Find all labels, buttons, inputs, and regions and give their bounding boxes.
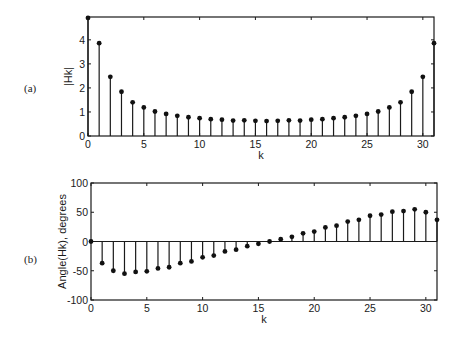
y-tick-label: 50 (76, 206, 88, 218)
stem-marker (130, 100, 135, 105)
stem-marker (245, 244, 250, 249)
y-tick-label: -100 (67, 294, 88, 306)
y-tick-label: 0 (82, 236, 88, 248)
x-tick-label: 10 (197, 302, 209, 314)
stem-marker (290, 234, 295, 239)
phase-stem-plot: 051015202530-100-50050100 k Angle(Hk), d… (56, 177, 439, 325)
stem-marker (312, 229, 317, 234)
stem-marker (220, 117, 225, 122)
stem-marker (234, 247, 239, 252)
stem-marker (133, 270, 138, 275)
stem-marker (267, 239, 272, 244)
stem-marker (435, 217, 440, 222)
x-tick-label: 10 (194, 138, 206, 150)
stem-marker (356, 217, 361, 222)
stem-marker (331, 116, 336, 121)
stem-marker (253, 118, 258, 123)
stem-marker (97, 41, 102, 46)
stem-marker (387, 105, 392, 110)
magnitude-stem-plot: 05101520253001234 k |Hk| (62, 16, 436, 161)
stem-marker (164, 111, 169, 116)
stem-marker (111, 268, 116, 273)
stem-marker (197, 116, 202, 121)
x-axis-label: k (258, 149, 264, 161)
stem-marker (242, 118, 247, 123)
stem-marker (256, 241, 261, 246)
stem-marker (89, 239, 94, 244)
stem-marker (186, 115, 191, 120)
stem-marker (376, 109, 381, 114)
x-tick-label: 20 (305, 138, 317, 150)
x-tick-label: 25 (364, 302, 376, 314)
stem-marker (323, 225, 328, 230)
stem-marker (412, 207, 417, 212)
y-tick-label: -50 (73, 265, 88, 277)
stem-marker (287, 118, 292, 123)
axis-ticks: 051015202530-100-50050100 (67, 177, 437, 314)
x-tick-label: 0 (88, 302, 94, 314)
stem-marker (175, 113, 180, 118)
y-tick-label: 0 (79, 130, 85, 142)
stem-marker (368, 213, 373, 218)
stem-marker (189, 259, 194, 264)
stem-marker (167, 265, 172, 270)
stem-marker (390, 209, 395, 214)
x-axis-label: k (261, 313, 267, 325)
x-tick-label: 5 (144, 302, 150, 314)
stem-marker (100, 261, 105, 266)
stem-marker (178, 261, 183, 266)
stem-marker (108, 74, 113, 79)
stem-marker (141, 105, 146, 110)
stem-marker (420, 74, 425, 79)
x-tick-label: 30 (420, 302, 432, 314)
stem-marker (345, 219, 350, 224)
stem-marker (401, 209, 406, 214)
stem-marker (275, 118, 280, 123)
x-tick-label: 5 (141, 138, 147, 150)
stem-marker (301, 231, 306, 236)
stem-marker (298, 118, 303, 123)
y-tick-label: 4 (79, 34, 85, 46)
stem-marker (144, 269, 149, 274)
x-tick-label: 20 (308, 302, 320, 314)
stem-marker (264, 119, 269, 124)
stem-marker (320, 117, 325, 122)
stem-marker (334, 223, 339, 228)
stem-marker (309, 117, 314, 122)
y-axis-label: |Hk| (62, 67, 74, 86)
data-stems (86, 16, 437, 136)
figure: (a) 05101520253001234 k |Hk| (b) 0510152… (0, 0, 453, 342)
stem-marker (365, 111, 370, 116)
panel-label-b: (b) (24, 253, 37, 266)
stem-marker (86, 16, 91, 21)
stem-marker (231, 118, 236, 123)
stem-marker (342, 115, 347, 120)
stem-marker (200, 255, 205, 260)
stem-marker (223, 249, 228, 254)
y-tick-label: 3 (79, 58, 85, 70)
panel-label-a: (a) (24, 82, 37, 95)
stem-marker (122, 271, 127, 276)
stem-marker (379, 212, 384, 217)
y-tick-label: 1 (79, 106, 85, 118)
stem-marker (423, 210, 428, 215)
x-tick-label: 30 (417, 138, 429, 150)
y-tick-label: 2 (79, 82, 85, 94)
y-tick-label: 100 (70, 177, 88, 189)
stem-marker (119, 89, 124, 94)
stem-marker (432, 41, 437, 46)
plot-frame (88, 17, 434, 136)
stem-marker (153, 109, 158, 114)
stem-marker (278, 237, 283, 242)
stem-marker (409, 89, 414, 94)
stem-marker (353, 113, 358, 118)
stem-marker (208, 117, 213, 122)
x-tick-label: 0 (85, 138, 91, 150)
x-tick-label: 25 (361, 138, 373, 150)
stem-marker (211, 253, 216, 258)
stem-marker (156, 266, 161, 271)
y-axis-label: Angle(Hk), degrees (56, 194, 68, 289)
stem-marker (398, 100, 403, 105)
